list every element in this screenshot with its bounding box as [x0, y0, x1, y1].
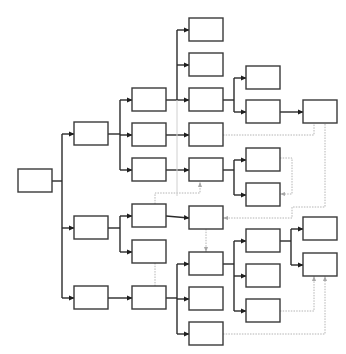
node-box: [246, 183, 280, 206]
node-root: [18, 169, 52, 192]
node-box: [132, 204, 166, 227]
node-L2d: [132, 204, 166, 227]
node-L5b: [303, 217, 337, 240]
node-L5a: [303, 100, 337, 123]
node-L3h: [189, 287, 223, 310]
node-box: [74, 122, 108, 145]
node-L4c: [246, 148, 280, 171]
node-L4e: [246, 229, 280, 252]
node-box: [303, 100, 337, 123]
node-box: [246, 66, 280, 89]
node-box: [246, 148, 280, 171]
node-box: [74, 286, 108, 309]
node-box: [246, 229, 280, 252]
node-box: [189, 206, 223, 229]
connector-arrow: [166, 216, 189, 218]
node-box: [246, 299, 280, 322]
node-box: [132, 240, 166, 263]
node-L3a: [189, 18, 223, 41]
node-box: [189, 123, 223, 146]
node-L4a: [246, 66, 280, 89]
node-L1a: [74, 122, 108, 145]
node-L2b: [132, 123, 166, 146]
node-box: [132, 88, 166, 111]
node-box: [246, 100, 280, 123]
node-L1b: [74, 216, 108, 239]
node-box: [189, 53, 223, 76]
node-L3d: [189, 123, 223, 146]
node-L3i: [189, 322, 223, 345]
node-L2e: [132, 240, 166, 263]
node-L4b: [246, 100, 280, 123]
node-L3b: [189, 53, 223, 76]
node-L3f: [189, 206, 223, 229]
node-box: [189, 252, 223, 275]
node-L2a: [132, 88, 166, 111]
node-L5c: [303, 253, 337, 276]
node-box: [74, 216, 108, 239]
node-L3e: [189, 158, 223, 181]
node-box: [132, 286, 166, 309]
node-box: [18, 169, 52, 192]
node-box: [189, 158, 223, 181]
dotted-feedback-connector: [280, 158, 292, 194]
node-box: [189, 18, 223, 41]
dotted-feedback-connector: [223, 124, 314, 135]
dotted-feedback-connector: [280, 276, 314, 311]
node-box: [132, 158, 166, 181]
node-box: [303, 253, 337, 276]
tree-diagram: [0, 0, 346, 354]
node-L4g: [246, 299, 280, 322]
node-box: [303, 217, 337, 240]
node-L4d: [246, 183, 280, 206]
node-box: [189, 287, 223, 310]
node-box: [246, 264, 280, 287]
node-L4f: [246, 264, 280, 287]
node-L3g: [189, 252, 223, 275]
node-L2c: [132, 158, 166, 181]
node-box: [189, 322, 223, 345]
node-L2f: [132, 286, 166, 309]
node-L1c: [74, 286, 108, 309]
node-L3c: [189, 88, 223, 111]
node-box: [132, 123, 166, 146]
node-box: [189, 88, 223, 111]
